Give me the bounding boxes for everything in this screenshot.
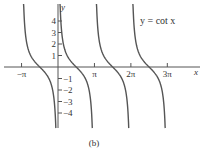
figure-caption: (b) — [89, 138, 100, 148]
x-tick-label: 2π — [126, 69, 136, 79]
x-axis-label: x — [193, 67, 198, 77]
y-tick-label: 2 — [52, 39, 57, 49]
x-tick-label: π — [92, 69, 97, 79]
y-tick-label: −1 — [63, 74, 73, 84]
y-tick-label: −2 — [63, 85, 73, 95]
y-tick-label: −4 — [63, 108, 73, 118]
y-tick-label: 3 — [52, 28, 57, 38]
x-tick-label: 3π — [163, 69, 173, 79]
y-tick-label: 1 — [52, 51, 57, 61]
y-tick-label: 4 — [52, 16, 57, 26]
chart-title: y = cot x — [140, 15, 175, 26]
chart: −ππ2π3π4321−1−2−3−4xy y = cot x (b) — [0, 0, 204, 152]
x-tick-label: −π — [17, 69, 27, 79]
y-tick-label: −3 — [63, 97, 73, 107]
cot-branch-3 — [96, 4, 128, 128]
y-axis-label: y — [60, 2, 65, 12]
